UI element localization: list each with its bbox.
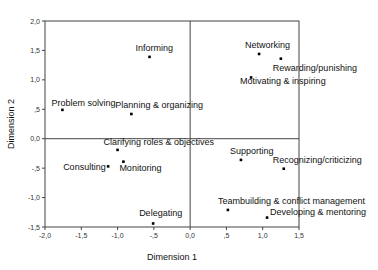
- point-label: Delegating: [139, 208, 182, 218]
- y-axis: 2,01,51,0,50,0-,5-1,0-1,5: [28, 18, 45, 231]
- data-point: Consulting: [63, 162, 109, 172]
- x-axis: -2,0-1,5-1,0-,50,0,51,01,5: [39, 227, 304, 239]
- y-tick-label: ,5: [34, 106, 40, 113]
- point-marker-icon: [116, 149, 119, 152]
- data-points: InformingNetworkingRewarding/punishingMo…: [51, 40, 366, 225]
- y-tick-label: 1,5: [30, 47, 40, 54]
- point-marker-icon: [152, 222, 155, 225]
- point-marker-icon: [240, 159, 243, 162]
- x-tick-label: -1,0: [112, 232, 124, 239]
- point-label: Networking: [245, 40, 290, 50]
- data-point: Problem solving: [51, 98, 115, 111]
- point-label: Planning & organizing: [115, 100, 203, 110]
- point-marker-icon: [107, 165, 110, 168]
- data-point: Informing: [136, 43, 174, 58]
- x-tick-label: -,5: [150, 232, 158, 239]
- data-point: Delegating: [139, 208, 182, 224]
- x-tick-label: 1,0: [258, 232, 268, 239]
- x-tick-label: 1,5: [294, 232, 304, 239]
- data-point: Recognizing/criticizing: [273, 155, 362, 170]
- point-marker-icon: [130, 113, 133, 116]
- y-tick-label: 2,0: [30, 18, 40, 25]
- point-label: Problem solving: [51, 98, 115, 108]
- point-marker-icon: [227, 209, 230, 212]
- data-point: Developing & mentoring: [266, 207, 366, 219]
- point-label: Informing: [136, 43, 174, 53]
- x-tick-label: ,5: [224, 232, 230, 239]
- y-axis-title: Dimension 2: [6, 99, 16, 149]
- point-label: Supporting: [230, 146, 274, 156]
- point-marker-icon: [148, 56, 151, 59]
- data-point: Supporting: [230, 146, 274, 161]
- point-marker-icon: [266, 216, 269, 219]
- x-tick-label: -2,0: [39, 232, 51, 239]
- point-label: Rewarding/punishing: [273, 63, 357, 73]
- y-tick-label: -1,5: [28, 224, 40, 231]
- point-label: Consulting: [63, 162, 106, 172]
- point-label: Clarifying roles & objectives: [104, 137, 215, 147]
- x-axis-title: Dimension 1: [147, 252, 197, 262]
- x-tick-label: 0,0: [185, 232, 195, 239]
- point-label: Motivating & inspiring: [240, 76, 326, 86]
- point-label: Developing & mentoring: [270, 207, 366, 217]
- data-point: Clarifying roles & objectives: [104, 137, 215, 151]
- y-tick-label: 1,0: [30, 76, 40, 83]
- point-label: Teambuilding & conflict management: [218, 196, 366, 206]
- y-tick-label: -,5: [32, 165, 40, 172]
- point-label: Recognizing/criticizing: [273, 155, 362, 165]
- point-marker-icon: [280, 57, 283, 60]
- y-tick-label: 0,0: [30, 135, 40, 142]
- mds-scatter-chart: -2,0-1,5-1,0-,50,0,51,01,5 2,01,51,0,50,…: [0, 0, 378, 270]
- point-label: Monitoring: [119, 163, 161, 173]
- data-point: Rewarding/punishing: [273, 57, 357, 72]
- point-marker-icon: [282, 167, 285, 170]
- data-point: Motivating & inspiring: [240, 76, 326, 86]
- point-marker-icon: [61, 109, 64, 112]
- data-point: Networking: [245, 40, 290, 55]
- y-tick-label: -1,0: [28, 194, 40, 201]
- point-marker-icon: [258, 53, 261, 56]
- data-point: Monitoring: [119, 160, 161, 172]
- x-tick-label: -1,5: [75, 232, 87, 239]
